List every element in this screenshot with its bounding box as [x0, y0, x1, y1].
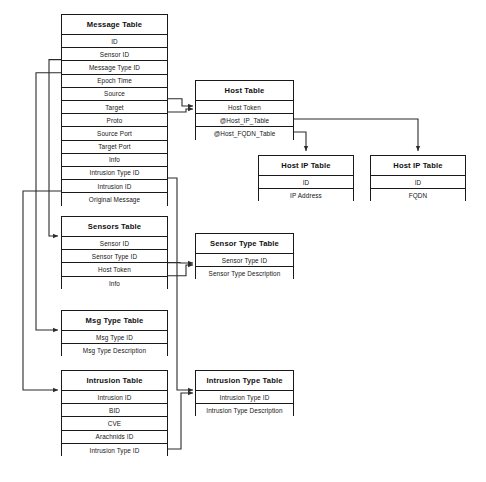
table-host-table[interactable]: Host TableHost Token@Host_IP_Table@Host_… — [195, 80, 294, 140]
table-field[interactable]: Sensor Type ID — [196, 254, 293, 267]
table-field[interactable]: Epoch Time — [62, 75, 167, 88]
table-field[interactable]: @Host_IP_Table — [196, 114, 293, 127]
table-field[interactable]: ID — [371, 176, 465, 189]
connector-host-ip-table-link — [294, 119, 418, 151]
table-title: Host Table — [196, 81, 293, 101]
table-field[interactable]: Intrusion ID — [62, 180, 167, 193]
connector-message-type-id-to-msg-type-table — [36, 73, 61, 330]
table-intrusion-type-table[interactable]: Intrusion Type TableIntrusion Type IDInt… — [195, 370, 294, 416]
table-sensor-type-table[interactable]: Sensor Type TableSensor Type IDSensor Ty… — [195, 233, 294, 279]
table-field[interactable]: Message Type ID — [62, 61, 167, 74]
table-title: Msg Type Table — [62, 311, 167, 331]
table-title: Message Table — [62, 15, 167, 35]
table-host-fqdn-table[interactable]: Host IP TableIDFQDN — [370, 155, 466, 201]
table-field[interactable]: Sensor ID — [62, 48, 167, 61]
table-field[interactable]: Intrusion ID — [62, 391, 167, 404]
table-msg-type-table[interactable]: Msg Type TableMsg Type IDMsg Type Descri… — [61, 310, 168, 356]
table-field[interactable]: Sensor ID — [62, 237, 167, 250]
table-field[interactable]: ID — [259, 176, 353, 189]
connector-source-to-host-token — [168, 99, 193, 106]
connector-target-to-host-token — [168, 109, 193, 112]
connector-intrusion-id-to-intrusion-table — [23, 191, 61, 390]
connector-sensor-id-to-sensors-table — [49, 60, 61, 236]
table-title: Host IP Table — [371, 156, 465, 176]
table-field[interactable]: Msg Type ID — [62, 331, 167, 344]
connector-host-token-to-sensor-type-table — [168, 265, 193, 276]
table-field[interactable]: Sensor Type ID — [62, 250, 167, 263]
table-field[interactable]: Sensor Type Description — [196, 267, 293, 280]
table-sensors-table[interactable]: Sensors TableSensor IDSensor Type IDHost… — [61, 216, 168, 289]
connector-intrusion-type-id-to-intrusion-type-table — [168, 393, 193, 449]
table-field[interactable]: Info — [62, 154, 167, 167]
table-field[interactable]: Host Token — [62, 263, 167, 276]
table-field[interactable]: Source Port — [62, 127, 167, 140]
table-field[interactable]: Msg Type Description — [62, 344, 167, 357]
table-field[interactable]: Host Token — [196, 101, 293, 114]
table-field[interactable]: Info — [62, 277, 167, 290]
table-field[interactable]: CVE — [62, 417, 167, 430]
table-field[interactable]: Intrusion Type Description — [196, 404, 293, 417]
table-field[interactable]: Target Port — [62, 141, 167, 154]
table-host-ip-table[interactable]: Host IP TableIDIP Address — [258, 155, 354, 201]
table-field[interactable]: ID — [62, 35, 167, 48]
table-intrusion-table[interactable]: Intrusion TableIntrusion IDBIDCVEArachni… — [61, 370, 168, 456]
table-title: Host IP Table — [259, 156, 353, 176]
connector-message-intrusion-type-to-intrusion-type-table — [168, 178, 193, 390]
table-field[interactable]: IP Address — [259, 189, 353, 202]
table-field[interactable]: Original Message — [62, 193, 167, 206]
table-field[interactable]: Target — [62, 101, 167, 114]
table-field[interactable]: Arachnids ID — [62, 431, 167, 444]
table-title: Intrusion Type Table — [196, 371, 293, 391]
er-diagram-canvas: Message TableIDSensor IDMessage Type IDE… — [0, 0, 486, 482]
table-field[interactable]: Proto — [62, 114, 167, 127]
table-title: Intrusion Table — [62, 371, 167, 391]
table-field[interactable]: @Host_FQDN_Table — [196, 127, 293, 140]
table-field[interactable]: Intrusion Type ID — [62, 444, 167, 457]
table-field[interactable]: Intrusion Type ID — [196, 391, 293, 404]
table-field[interactable]: BID — [62, 404, 167, 417]
table-title: Sensors Table — [62, 217, 167, 237]
table-message-table[interactable]: Message TableIDSensor IDMessage Type IDE… — [61, 14, 168, 206]
table-title: Sensor Type Table — [196, 234, 293, 254]
table-field[interactable]: FQDN — [371, 189, 465, 202]
table-field[interactable]: Intrusion Type ID — [62, 167, 167, 180]
table-field[interactable]: Source — [62, 88, 167, 101]
connector-host-fqdn-table-link — [294, 132, 306, 151]
